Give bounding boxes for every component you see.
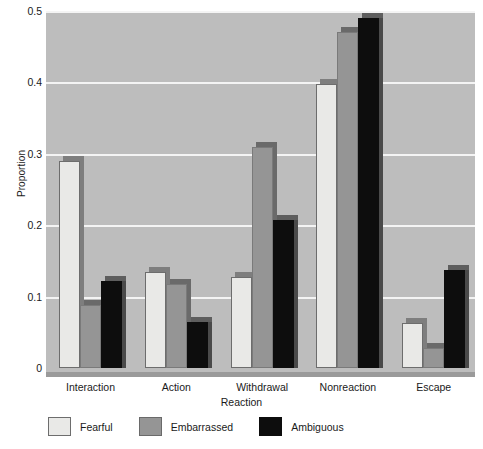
y-tick-label: 0 — [2, 362, 42, 374]
x-tick-label-withdrawal: Withdrawal — [236, 381, 288, 393]
bar-side-face — [294, 215, 298, 368]
bars-layer — [46, 11, 475, 368]
x-tick-label-nonreaction: Nonreaction — [320, 381, 377, 393]
bar-front-face — [80, 305, 101, 368]
y-tick-label: 0.3 — [2, 148, 42, 160]
bar-action-ambiguous — [187, 322, 208, 368]
bar-front-face — [252, 147, 273, 368]
y-tick-label: 0.1 — [2, 291, 42, 303]
legend-swatch-embarrassed — [139, 417, 162, 436]
bar-nonreaction-fearful — [316, 84, 337, 368]
bar-withdrawal-embarrassed — [252, 147, 273, 368]
bar-side-face — [208, 317, 212, 368]
bar-front-face — [59, 161, 80, 368]
legend-swatch-fearful — [48, 417, 71, 436]
y-axis-title: Proportion — [16, 119, 27, 229]
legend-label-fearful: Fearful — [80, 421, 113, 433]
bar-front-face — [358, 18, 379, 368]
bar-withdrawal-ambiguous — [273, 220, 294, 368]
bar-interaction-fearful — [59, 161, 80, 368]
bar-interaction-embarrassed — [80, 305, 101, 368]
bar-side-face — [122, 276, 126, 368]
x-tick-label-interaction: Interaction — [66, 381, 115, 393]
y-tick-label: 0.2 — [2, 219, 42, 231]
bar-front-face — [166, 284, 187, 368]
bar-front-face — [423, 348, 444, 368]
bar-side-face — [379, 13, 383, 368]
plot-area — [46, 11, 475, 372]
legend-item-ambiguous: Ambiguous — [259, 417, 344, 436]
x-tick-label-action: Action — [162, 381, 191, 393]
bar-escape-ambiguous — [444, 270, 465, 368]
bar-action-fearful — [145, 272, 166, 368]
bar-nonreaction-embarrassed — [337, 32, 358, 368]
bar-action-embarrassed — [166, 284, 187, 368]
legend-swatch-ambiguous — [259, 417, 282, 436]
legend: FearfulEmbarrassedAmbiguous — [48, 417, 370, 436]
y-tick-label: 0.5 — [2, 5, 42, 17]
bar-front-face — [402, 323, 423, 368]
bar-front-face — [101, 281, 122, 368]
legend-item-embarrassed: Embarrassed — [139, 417, 233, 436]
x-tick-label-escape: Escape — [416, 381, 451, 393]
legend-label-embarrassed: Embarrassed — [171, 421, 233, 433]
bar-front-face — [231, 277, 252, 368]
bar-interaction-ambiguous — [101, 281, 122, 368]
bar-front-face — [444, 270, 465, 368]
bar-front-face — [337, 32, 358, 368]
bar-nonreaction-ambiguous — [358, 18, 379, 368]
bar-front-face — [273, 220, 294, 368]
bar-chart-figure: Proportion 00.10.20.30.40.5 InteractionA… — [0, 0, 483, 449]
bar-front-face — [316, 84, 337, 368]
y-tick-label: 0.4 — [2, 76, 42, 88]
bar-front-face — [187, 322, 208, 368]
bar-escape-fearful — [402, 323, 423, 368]
bar-side-face — [465, 265, 469, 368]
bar-escape-embarrassed — [423, 348, 444, 368]
bar-withdrawal-fearful — [231, 277, 252, 368]
legend-label-ambiguous: Ambiguous — [291, 421, 344, 433]
legend-item-fearful: Fearful — [48, 417, 113, 436]
bar-front-face — [145, 272, 166, 368]
x-axis-title: Reaction — [0, 396, 483, 408]
